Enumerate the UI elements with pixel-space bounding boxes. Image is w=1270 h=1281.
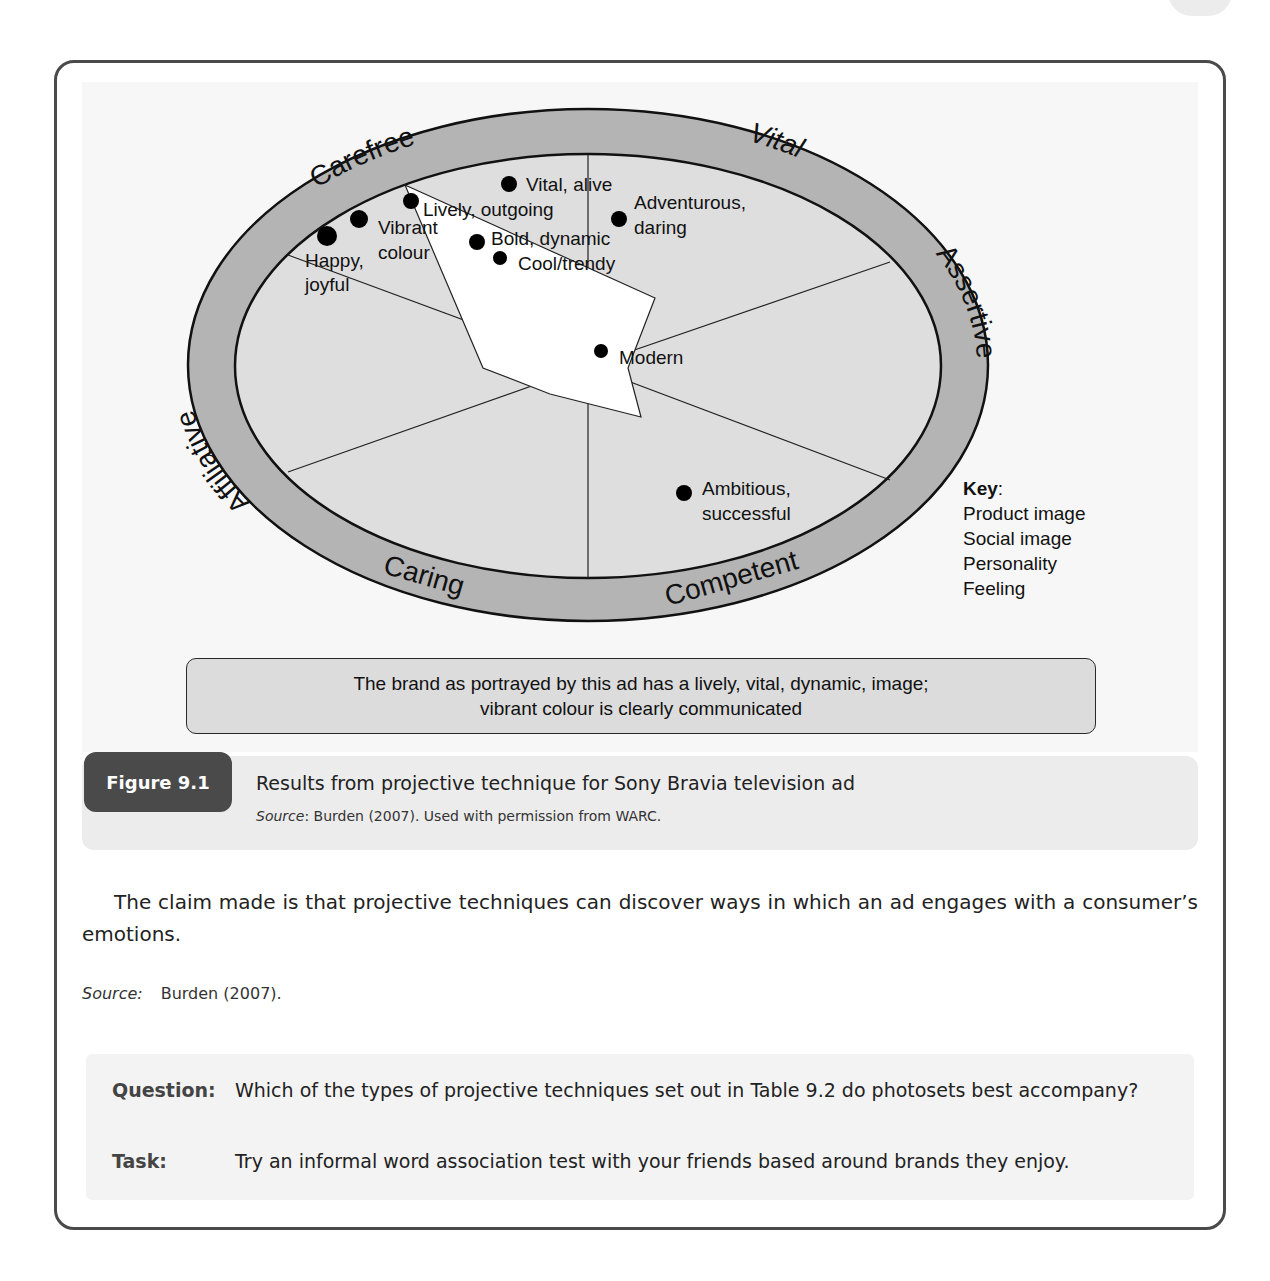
point-vital-alive <box>501 176 517 192</box>
key-title: Key <box>963 478 998 499</box>
point-vibrant-colour <box>350 210 368 228</box>
task-text: Try an informal word association test wi… <box>235 1146 1170 1176</box>
figure-badge: Figure 9.1 <box>84 752 232 812</box>
label-adventurous-1: Adventurous, <box>634 192 746 213</box>
label-bold-dynamic: Bold, dynamic <box>491 228 610 249</box>
diagram-key: Key: Product image Social image Personal… <box>963 476 1086 601</box>
label-adventurous-2: daring <box>634 217 687 238</box>
label-ambitious-1: Ambitious, <box>702 478 791 499</box>
label-modern: Modern <box>619 347 683 368</box>
figure-title: Results from projective technique for So… <box>256 772 855 794</box>
label-vibrant-2: colour <box>378 242 430 263</box>
task-label: Task: <box>112 1146 232 1176</box>
label-vibrant-1: Vibrant <box>378 217 439 238</box>
key-item-personality: Personality <box>963 551 1086 576</box>
projective-technique-diagram: Carefree Vital Affiliative Assertive Car… <box>0 0 1270 760</box>
point-ambitious-successful <box>676 485 692 501</box>
point-adventurous-daring <box>611 211 627 227</box>
body-paragraph: The claim made is that projective techni… <box>82 886 1198 950</box>
label-lively-outgoing: Lively, outgoing <box>423 199 554 220</box>
point-modern <box>594 344 608 358</box>
label-happy-2: joyful <box>304 274 349 295</box>
key-item-product-image: Product image <box>963 501 1086 526</box>
figure-source: Source: Burden (2007). Used with permiss… <box>256 808 661 824</box>
point-bold-dynamic <box>469 234 485 250</box>
label-ambitious-2: successful <box>702 503 791 524</box>
body-source: Source:Burden (2007). <box>82 984 282 1003</box>
question-text: Which of the types of projective techniq… <box>235 1075 1170 1105</box>
key-item-feeling: Feeling <box>963 576 1086 601</box>
key-item-social-image: Social image <box>963 526 1086 551</box>
label-cool-trendy: Cool/trendy <box>518 253 616 274</box>
label-happy-1: Happy, <box>305 250 364 271</box>
question-label: Question: <box>112 1075 232 1105</box>
point-cool-trendy <box>493 251 507 265</box>
point-lively-outgoing <box>403 193 419 209</box>
label-vital-alive: Vital, alive <box>526 174 612 195</box>
summary-box: The brand as portrayed by this ad has a … <box>186 658 1096 734</box>
summary-line-2: vibrant colour is clearly communicated <box>353 696 928 721</box>
figure-caption-strip <box>82 756 1198 850</box>
summary-line-1: The brand as portrayed by this ad has a … <box>353 671 928 696</box>
point-happy-joyful <box>317 226 337 246</box>
